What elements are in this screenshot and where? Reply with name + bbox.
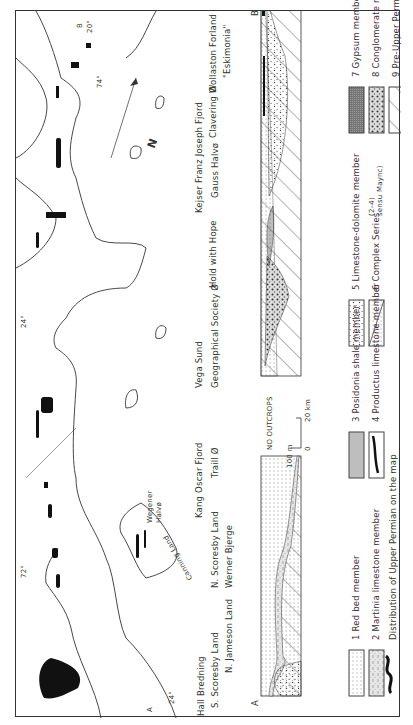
section-end-b: B — [250, 10, 260, 16]
legend-item-6: 6 Complex Series — [371, 213, 381, 290]
legend-distribution: Distribution of Upper Permian on the map — [388, 454, 398, 640]
legend-item-8: 8 Conglomerate member — [371, 0, 381, 77]
coord-24-west: 24° — [168, 691, 176, 704]
section-label-b-map: B — [76, 23, 84, 28]
place-clavering-o: Clavering Ø — [208, 86, 218, 138]
place-traill-o: Traill Ø — [210, 447, 220, 478]
legend-swatch-8 — [369, 87, 384, 133]
place-hold-with-hope: Hold with Hope — [208, 220, 218, 288]
coord-74: 74° — [96, 75, 104, 88]
label-wegener: Wegener — [146, 490, 154, 523]
scale-h-end: 20 km — [304, 399, 312, 422]
legend-item-6-sub-a: (2–4) — [368, 197, 376, 216]
legend-item-5: 5 Limestone-dolomite member — [351, 153, 361, 290]
place-kang-oscar-fjord: Kang Oscar Fjord — [194, 442, 204, 518]
place-kejser-franz-joseph-fjord: Kejser Franz Joseph Fjord — [194, 102, 204, 213]
legend-swatch-1 — [349, 650, 364, 696]
coord-20: 20° — [86, 20, 94, 33]
legend-swatch-2 — [369, 650, 384, 696]
section-start-a: A — [250, 700, 260, 706]
place-n-scoresby-land: N. Scoresby Land — [210, 511, 220, 588]
legend-item-2: 2 Martinia limestone member — [371, 509, 381, 640]
legend-swatch-3 — [349, 432, 364, 478]
place-geographical-society-o: Geographical Society Ø — [210, 284, 220, 388]
legend-item-6-sub-b: sensu Maync) — [376, 165, 384, 216]
legend-item-1: 1 Red bed member — [351, 555, 361, 640]
place-gauss-halvo: Gauss Halvø — [210, 143, 220, 198]
figure-frame: A 24° 72° 24° 74° B 20° N Wegener Halvø … — [15, 10, 400, 717]
legend-item-9: 9 Pre-Upper Permian — [391, 0, 401, 77]
rotated-figure-canvas: A 24° 72° 24° 74° B 20° N Wegener Halvø … — [16, 11, 401, 718]
place-wollaston-forland: Wollaston Forland — [208, 14, 218, 93]
place-vega-sund: Vega Sund — [194, 341, 204, 388]
coord-72: 72° — [20, 565, 28, 578]
coord-24-east: 24° — [20, 315, 28, 328]
section-label-a: A — [146, 707, 154, 712]
legend-item-3: 3 Posidonia shale member — [351, 305, 361, 422]
place-s-scoresby-land: S. Scoresby Land — [210, 632, 220, 708]
legend-swatch-7 — [349, 87, 364, 133]
legend-item-7: 7 Gypsum member — [351, 0, 361, 77]
scale-vertical: 100 m — [286, 445, 294, 468]
scale-h-start: 0 — [304, 446, 312, 451]
place-werner-bjerge: Werner Bjerge — [224, 525, 234, 588]
place-n-jameson-land: N. Jameson Land — [224, 599, 234, 673]
legend-swatch-9 — [389, 87, 401, 133]
legend-item-4: 4 Productus limestone member — [371, 283, 381, 422]
no-outcrops-label: NO OUTCROPS — [266, 396, 274, 450]
place-eskimonia: "Eskimonia" — [222, 24, 232, 78]
place-hall-bredning: Hall Bredning — [196, 656, 206, 716]
label-halvo: Halvø — [155, 502, 163, 523]
